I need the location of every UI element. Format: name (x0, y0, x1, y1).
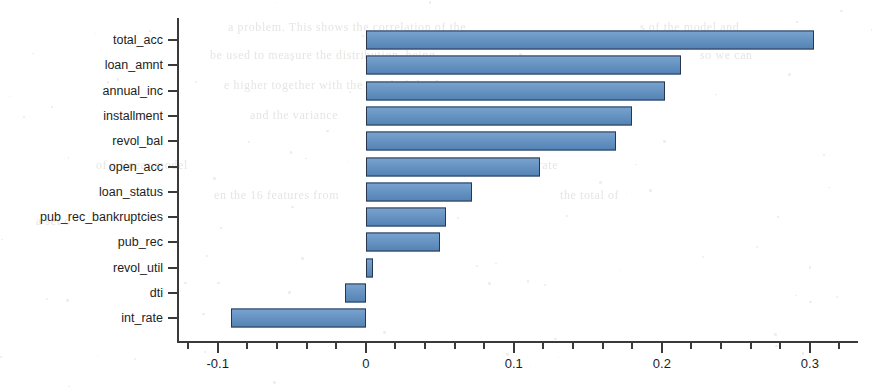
y-tick-installment (168, 115, 177, 117)
y-axis-label-loan_status: loan_status (99, 185, 163, 199)
y-axis-label-open_acc: open_acc (109, 160, 163, 174)
x-axis-label-0.1: 0.1 (505, 356, 523, 371)
x-axis-label--0.1: -0.1 (207, 356, 229, 371)
y-axis-label-total_acc: total_acc (113, 33, 163, 47)
y-tick-revol_util (168, 267, 177, 269)
x-tick-0.26 (750, 343, 752, 349)
x-tick-0.3 (809, 343, 811, 353)
bar-revol_bal (366, 132, 616, 151)
x-tick-0.04 (424, 343, 426, 349)
bar-total_acc (366, 31, 815, 50)
x-tick--0.06 (276, 343, 278, 349)
y-tick-loan_amnt (168, 64, 177, 66)
y-tick-total_acc (168, 39, 177, 41)
bar-installment (366, 106, 632, 125)
x-tick-0.24 (720, 343, 722, 349)
bar-revol_util (366, 258, 373, 277)
y-axis-label-annual_inc: annual_inc (103, 84, 163, 98)
x-tick-0.18 (631, 343, 633, 349)
x-tick--0.08 (246, 343, 248, 349)
x-tick--0.02 (335, 343, 337, 349)
bar-loan_status (366, 182, 473, 201)
y-axis-label-revol_util: revol_util (113, 261, 163, 275)
x-axis-label-0.3: 0.3 (801, 356, 819, 371)
x-axis-label-0: 0 (362, 356, 369, 371)
y-tick-loan_status (168, 191, 177, 193)
y-axis-label-loan_amnt: loan_amnt (105, 58, 163, 72)
y-tick-int_rate (168, 317, 177, 319)
bar-pub_rec (366, 233, 440, 252)
y-axis-label-revol_bal: revol_bal (112, 134, 163, 148)
y-axis-label-pub_rec_bankruptcies: pub_rec_bankruptcies (40, 210, 163, 224)
x-tick-0.32 (838, 343, 840, 349)
x-tick--0.1 (217, 343, 219, 353)
bar-loan_amnt (366, 56, 681, 75)
y-tick-revol_bal (168, 140, 177, 142)
y-axis-line (177, 18, 179, 343)
y-tick-annual_inc (168, 90, 177, 92)
x-axis-label-0.2: 0.2 (653, 356, 671, 371)
y-tick-dti (168, 292, 177, 294)
x-axis-line (177, 341, 858, 343)
x-tick--0.12 (187, 343, 189, 349)
y-axis-label-int_rate: int_rate (121, 311, 163, 325)
x-tick-0.02 (394, 343, 396, 349)
bar-int_rate (231, 309, 366, 328)
bar-pub_rec_bankruptcies (366, 208, 446, 227)
bar-dti (345, 284, 366, 303)
plot-area: total_accloan_amntannual_incinstallmentr… (0, 0, 876, 387)
x-tick-0.28 (779, 343, 781, 349)
x-tick-0.1 (513, 343, 515, 353)
x-tick-0 (365, 343, 367, 353)
x-tick-0.14 (572, 343, 574, 349)
x-tick-0.16 (602, 343, 604, 349)
y-axis-label-pub_rec: pub_rec (118, 235, 163, 249)
x-tick-0.22 (690, 343, 692, 349)
bar-open_acc (366, 157, 541, 176)
correlation-bar-chart: a problem. This shows the correlation of… (0, 0, 876, 387)
x-tick--0.04 (306, 343, 308, 349)
x-tick-0.08 (483, 343, 485, 349)
y-tick-pub_rec_bankruptcies (168, 216, 177, 218)
y-tick-open_acc (168, 166, 177, 168)
y-axis-label-dti: dti (150, 286, 163, 300)
y-tick-pub_rec (168, 241, 177, 243)
bar-annual_inc (366, 81, 665, 100)
y-axis-label-installment: installment (103, 109, 163, 123)
x-tick-0.2 (661, 343, 663, 353)
x-tick-0.12 (542, 343, 544, 349)
x-tick-0.06 (454, 343, 456, 349)
